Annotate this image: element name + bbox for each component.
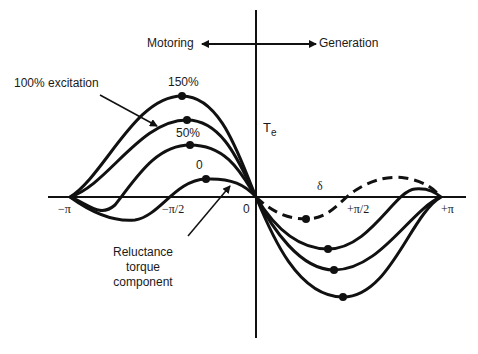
reluctance-label: Reluctance torque component (113, 245, 173, 290)
peak-dot-50-motoring (186, 141, 194, 149)
tick-pos-pi: +π (441, 203, 454, 215)
peak-dot-150-generating (339, 293, 347, 301)
motoring-label: Motoring (147, 37, 194, 49)
reluctance-label-line1: Reluctance (113, 245, 173, 260)
peak-dot-100-motoring (183, 116, 191, 124)
reluctance-label-line2: torque (113, 260, 173, 275)
excitation-150-label: 150% (168, 76, 199, 88)
torque-axis-symbol: T (263, 120, 271, 135)
delta-axis-label: δ (317, 180, 323, 192)
excitation-100-label: 100% excitation (14, 77, 99, 89)
peak-dot-150-motoring (178, 92, 186, 100)
torque-angle-diagram: Motoring Generation 100% excitation 150%… (0, 0, 478, 354)
peak-dot-0-generating (302, 215, 310, 223)
torque-axis-subscript: e (271, 127, 277, 138)
peak-dot-0-motoring (202, 175, 210, 183)
reluctance-label-line3: component (113, 275, 173, 290)
excitation-50-label: 50% (176, 127, 200, 139)
tick-pos-half-pi: +π/2 (347, 203, 369, 215)
excitation-0-label: 0 (196, 159, 203, 171)
tick-neg-pi: −π (58, 203, 71, 215)
torque-axis-label: Te (263, 121, 277, 138)
peak-dot-100-generating (330, 266, 338, 274)
tick-neg-half-pi: −π/2 (162, 203, 184, 215)
diagram-canvas (0, 0, 478, 354)
tick-zero: 0 (243, 203, 250, 215)
peak-dot-50-generating (324, 245, 332, 253)
generation-label: Generation (319, 37, 378, 49)
reluctance-pointer-arrow (188, 186, 230, 236)
